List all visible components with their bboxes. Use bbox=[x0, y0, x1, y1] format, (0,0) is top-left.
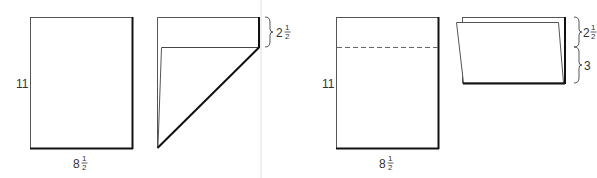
width-label-whole: 8 bbox=[379, 157, 386, 171]
figure-corner-folded: 2 1 2 bbox=[158, 17, 291, 148]
brace-icon-top bbox=[574, 17, 582, 47]
width-label-whole: 8 bbox=[73, 157, 80, 171]
width-label-denominator: 2 bbox=[388, 163, 393, 172]
fold-label-numerator: 1 bbox=[285, 23, 290, 32]
fold-label-whole: 2 bbox=[276, 26, 283, 40]
top-label-numerator: 1 bbox=[591, 23, 596, 32]
height-label: 11 bbox=[16, 77, 29, 91]
brace-icon-bottom bbox=[574, 47, 582, 83]
width-label-denominator: 2 bbox=[82, 163, 87, 172]
figure-sheet-with-fold-line: 11 8 1 2 bbox=[322, 17, 439, 172]
sheet-outline bbox=[337, 18, 439, 149]
paper-folding-diagram: 11 8 1 2 2 1 2 11 8 1 2 bbox=[0, 0, 597, 178]
figure-folded-sheet: 2 1 2 3 bbox=[457, 17, 597, 84]
bottom-label: 3 bbox=[584, 59, 591, 73]
width-label-numerator: 1 bbox=[82, 154, 87, 163]
fold-label-denominator: 2 bbox=[285, 32, 290, 41]
height-label: 11 bbox=[322, 77, 335, 91]
top-label-denominator: 2 bbox=[591, 32, 596, 41]
top-label-whole: 2 bbox=[583, 26, 590, 40]
brace-icon bbox=[265, 17, 273, 47]
figure-flat-sheet: 11 8 1 2 bbox=[16, 17, 133, 172]
front-flap bbox=[457, 23, 564, 84]
width-label-numerator: 1 bbox=[388, 154, 393, 163]
sheet-outline bbox=[31, 18, 133, 149]
